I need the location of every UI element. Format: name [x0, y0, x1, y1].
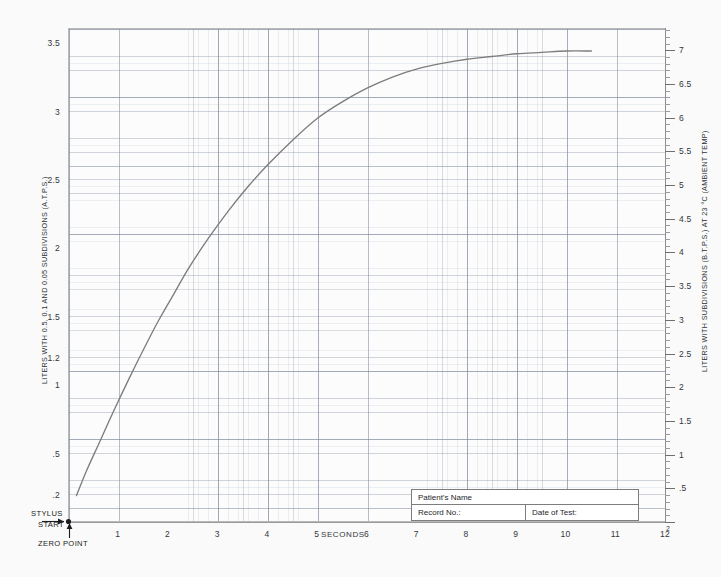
- y-tick-right-2: 2: [679, 382, 684, 392]
- right-ruler-tick: [665, 414, 670, 415]
- right-ruler-tick: [665, 320, 675, 321]
- y-tick-right-p5: .5: [679, 483, 687, 493]
- y-axis-right-title: LITERS WITH SUBDIVISIONS (B.T.P.S.) AT 2…: [700, 130, 709, 372]
- y-tick-right-1p5: 1.5: [679, 416, 691, 426]
- start-label: START: [38, 520, 64, 529]
- right-ruler-tick: [665, 219, 675, 220]
- right-ruler-tick: [665, 448, 670, 449]
- right-ruler-tick: [665, 199, 670, 200]
- y-tick-right-7: 7: [679, 45, 684, 55]
- y-tick-right-4p5: 4.5: [679, 214, 691, 224]
- right-ruler-tick: [665, 266, 670, 267]
- right-ruler-tick: [665, 428, 670, 429]
- right-ruler-tick: [665, 461, 670, 462]
- right-ruler-tick: [665, 138, 670, 139]
- right-ruler-tick: [665, 192, 670, 193]
- right-ruler-tick: [665, 407, 670, 408]
- right-ruler-tick: [665, 434, 670, 435]
- right-ruler-tick: [665, 327, 670, 328]
- y-tick-left-p5: .5: [30, 449, 60, 459]
- right-ruler-tick: [665, 394, 670, 395]
- record-date-row[interactable]: Record No.: Date of Test:: [412, 505, 638, 520]
- right-ruler-tick: [665, 111, 670, 112]
- right-ruler-tick: [665, 333, 670, 334]
- right-ruler-tick: [665, 515, 670, 516]
- right-ruler-tick: [665, 475, 670, 476]
- right-ruler-tick: [665, 482, 670, 483]
- right-ruler-tick: [665, 97, 670, 98]
- right-ruler-tick: [665, 104, 670, 105]
- spirogram-trace-svg: [69, 29, 665, 522]
- right-ruler-tick: [665, 44, 670, 45]
- y-tick-right-4: 4: [679, 247, 684, 257]
- y-axis-right-ruler: [665, 28, 677, 522]
- x-tick-5: 5: [314, 529, 319, 539]
- right-ruler-tick: [665, 306, 670, 307]
- right-ruler-tick: [665, 178, 670, 179]
- x-tick-1: 1: [115, 529, 120, 539]
- right-ruler-tick: [665, 354, 675, 355]
- right-ruler-tick: [665, 124, 670, 125]
- y-tick-left-3p5: 3.5: [30, 38, 60, 48]
- right-ruler-tick: [665, 185, 675, 186]
- x-tick-7: 7: [414, 529, 419, 539]
- patient-info-box[interactable]: Patient's Name Record No.: Date of Test:: [411, 489, 639, 521]
- right-ruler-tick: [665, 374, 670, 375]
- x-tick-8: 8: [464, 529, 469, 539]
- right-ruler-tick: [665, 91, 670, 92]
- right-ruler-tick: [665, 286, 675, 287]
- x-tick-4: 4: [265, 529, 270, 539]
- plot-area: [68, 28, 665, 522]
- right-ruler-tick: [665, 77, 670, 78]
- record-no-label: Record No.:: [412, 505, 525, 520]
- x-tick-3: 3: [215, 529, 220, 539]
- x-axis-line: [68, 522, 665, 523]
- right-ruler-tick: [665, 367, 670, 368]
- right-ruler-tick: [665, 455, 675, 456]
- spirometry-chart-page: 6.565.554.543.532.521.51.21.5.2 76.565.5…: [0, 0, 721, 577]
- right-ruler-tick: [665, 522, 675, 523]
- right-ruler-tick: [665, 347, 670, 348]
- spirogram-trace-path: [76, 51, 591, 496]
- right-ruler-tick: [665, 37, 670, 38]
- right-ruler-tick: [665, 380, 670, 381]
- right-ruler-tick: [665, 252, 675, 253]
- x-tick-12: 12: [660, 529, 670, 539]
- right-ruler-tick: [665, 421, 675, 422]
- right-ruler-tick: [665, 495, 670, 496]
- right-ruler-tick: [665, 212, 670, 213]
- right-ruler-tick: [665, 30, 670, 31]
- right-ruler-tick: [665, 70, 670, 71]
- right-ruler-tick: [665, 401, 670, 402]
- right-ruler-tick: [665, 340, 670, 341]
- x-axis-label: SECONDS: [321, 530, 365, 539]
- right-ruler-tick: [665, 225, 670, 226]
- right-ruler-tick: [665, 131, 670, 132]
- right-ruler-tick: [665, 468, 670, 469]
- y-tick-right-1: 1: [679, 450, 684, 460]
- patient-name-row[interactable]: Patient's Name: [412, 490, 638, 505]
- y-tick-left-3: 3: [30, 107, 60, 117]
- right-ruler-tick: [665, 64, 670, 65]
- right-ruler-tick: [665, 488, 675, 489]
- stylus-label: STYLUS: [31, 509, 63, 518]
- right-ruler-tick: [665, 246, 670, 247]
- y-tick-right-2p5: 2.5: [679, 349, 691, 359]
- right-ruler-tick: [665, 50, 675, 51]
- right-ruler-tick: [665, 273, 670, 274]
- date-of-test-label: Date of Test:: [525, 505, 638, 520]
- y-tick-right-6p5: 6.5: [679, 79, 691, 89]
- right-ruler-tick: [665, 158, 670, 159]
- y-tick-right-3p5: 3.5: [679, 281, 691, 291]
- right-ruler-tick: [665, 57, 670, 58]
- right-ruler-tick: [665, 293, 670, 294]
- y-tick-left-p2: .2: [30, 490, 60, 500]
- right-ruler-tick: [665, 502, 670, 503]
- right-ruler-tick: [665, 145, 670, 146]
- y-tick-right-6: 6: [679, 113, 684, 123]
- right-ruler-tick: [665, 118, 675, 119]
- x-tick-2: 2: [165, 529, 170, 539]
- x-tick-6: 6: [364, 529, 369, 539]
- y-tick-right-5: 5: [679, 180, 684, 190]
- right-ruler-tick: [665, 300, 670, 301]
